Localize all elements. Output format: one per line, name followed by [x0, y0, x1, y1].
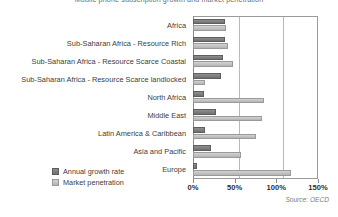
legend-label: Market penetration — [63, 178, 124, 187]
axis-tick-label: 50% — [227, 183, 242, 192]
bar-group — [193, 34, 318, 52]
category-label: Sub-Saharan Africa - Resource Scarce Coa… — [0, 52, 190, 70]
category-label: North Africa — [0, 88, 190, 106]
bars-layer — [193, 16, 318, 179]
category-label: Asia and Pacific — [0, 143, 190, 161]
bar-annual-growth-rate — [193, 163, 197, 169]
bar-annual-growth-rate — [193, 73, 221, 79]
bar-annual-growth-rate — [193, 127, 205, 133]
axis-tick-label: 150% — [308, 183, 327, 192]
bar-market-penetration — [193, 116, 262, 122]
legend-item: Annual growth rate — [52, 166, 124, 177]
category-label: Africa — [0, 16, 190, 34]
bar-annual-growth-rate — [193, 145, 211, 151]
bar-market-penetration — [193, 25, 226, 31]
category-label: Middle East — [0, 107, 190, 125]
legend-label: Annual growth rate — [63, 167, 124, 176]
bar-market-penetration — [193, 80, 205, 86]
chart-legend: Annual growth rateMarket penetration — [52, 166, 124, 188]
bar-group — [193, 143, 318, 161]
chart-container: Mobile phone subscription growth and mar… — [0, 0, 338, 217]
bar-group — [193, 125, 318, 143]
legend-swatch-growth — [52, 168, 59, 175]
bar-market-penetration — [193, 98, 264, 104]
bar-market-penetration — [193, 134, 256, 140]
bar-group — [193, 70, 318, 88]
legend-item: Market penetration — [52, 177, 124, 188]
category-label: Latin America & Caribbean — [0, 125, 190, 143]
bar-market-penetration — [193, 43, 228, 49]
bar-market-penetration — [193, 170, 291, 176]
bar-annual-growth-rate — [193, 37, 225, 43]
bar-group — [193, 161, 318, 179]
source-note: Source: OECD — [285, 196, 329, 203]
category-label: Sub-Saharan Africa - Resource Rich — [0, 34, 190, 52]
bar-group — [193, 52, 318, 70]
category-axis-labels: AfricaSub-Saharan Africa - Resource Rich… — [0, 16, 190, 179]
value-axis-labels: 0%50%100%150% — [0, 183, 338, 195]
bar-market-penetration — [193, 61, 233, 67]
axis-tick-label: 0% — [188, 183, 199, 192]
bar-group — [193, 88, 318, 106]
bar-annual-growth-rate — [193, 19, 225, 25]
bar-annual-growth-rate — [193, 91, 204, 97]
bar-group — [193, 16, 318, 34]
legend-swatch-penetration — [52, 179, 59, 186]
bar-market-penetration — [193, 152, 241, 158]
bar-annual-growth-rate — [193, 109, 216, 115]
bar-annual-growth-rate — [193, 55, 223, 61]
axis-tick-label: 100% — [267, 183, 286, 192]
category-label: Sub-Saharan Africa - Resource Scarce lan… — [0, 70, 190, 88]
bar-group — [193, 107, 318, 125]
chart-title: Mobile phone subscription growth and mar… — [0, 0, 338, 4]
